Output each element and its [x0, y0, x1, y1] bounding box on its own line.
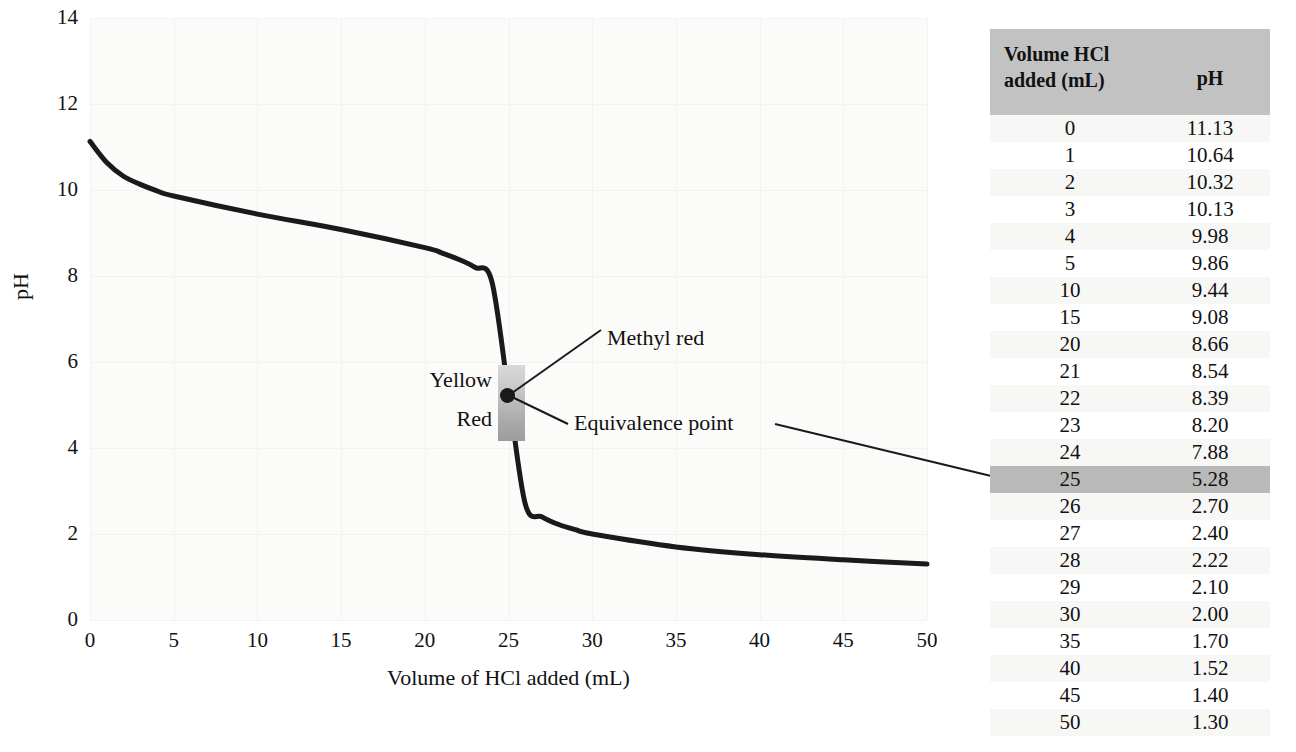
column-header-ph: pH [1150, 29, 1270, 115]
titration-curve [90, 18, 927, 620]
cell-volume: 35 [990, 628, 1150, 655]
cell-ph: 10.64 [1150, 142, 1270, 169]
cell-ph: 8.66 [1150, 331, 1270, 358]
cell-ph: 10.13 [1150, 196, 1270, 223]
cell-ph: 2.70 [1150, 493, 1270, 520]
cell-ph: 2.22 [1150, 547, 1270, 574]
x-axis-tick-30: 30 [562, 628, 622, 652]
table-row-highlighted: 255.28 [990, 466, 1270, 493]
cell-ph: 7.88 [1150, 439, 1270, 466]
table-row: 310.13 [990, 196, 1270, 223]
cell-ph: 2.10 [1150, 574, 1270, 601]
x-axis-tick-45: 45 [813, 628, 873, 652]
table-row: 110.64 [990, 142, 1270, 169]
cell-ph: 1.40 [1150, 682, 1270, 709]
table-row: 302.00 [990, 601, 1270, 628]
table-row: 208.66 [990, 331, 1270, 358]
cell-volume: 21 [990, 358, 1150, 385]
ph-data-table-panel: Volume HCl added (mL) pH 011.13110.64210… [990, 29, 1256, 736]
y-axis-tick-14: 14 [20, 7, 78, 28]
cell-ph: 5.28 [1150, 466, 1270, 493]
table-body: 011.13110.64210.32310.1349.9859.86109.44… [990, 115, 1270, 736]
plot-area [90, 18, 927, 620]
ph-data-table: Volume HCl added (mL) pH 011.13110.64210… [990, 29, 1270, 736]
cell-ph: 8.20 [1150, 412, 1270, 439]
table-row: 011.13 [990, 115, 1270, 142]
table-row: 401.52 [990, 655, 1270, 682]
table-row: 451.40 [990, 682, 1270, 709]
column-header-volume-line2: added (mL) [1004, 67, 1150, 93]
cell-volume: 3 [990, 196, 1150, 223]
column-header-volume: Volume HCl added (mL) [990, 29, 1150, 115]
table-row: 238.20 [990, 412, 1270, 439]
cell-ph: 1.30 [1150, 709, 1270, 736]
table-header-row: Volume HCl added (mL) pH [990, 29, 1270, 115]
y-axis-tick-labels: 02468101214 [0, 18, 78, 620]
cell-volume: 24 [990, 439, 1150, 466]
cell-volume: 30 [990, 601, 1150, 628]
table-row: 501.30 [990, 709, 1270, 736]
methyl-red-transition-band [498, 365, 525, 441]
y-axis-tick-12: 12 [20, 93, 78, 114]
cell-ph: 9.44 [1150, 277, 1270, 304]
cell-volume: 22 [990, 385, 1150, 412]
cell-ph: 10.32 [1150, 169, 1270, 196]
cell-ph: 9.08 [1150, 304, 1270, 331]
x-axis-tick-0: 0 [60, 628, 120, 652]
indicator-red-label: Red [378, 406, 492, 432]
column-header-volume-line1: Volume HCl [1004, 41, 1150, 67]
cell-ph: 9.86 [1150, 250, 1270, 277]
cell-ph: 1.52 [1150, 655, 1270, 682]
cell-volume: 28 [990, 547, 1150, 574]
cell-volume: 15 [990, 304, 1150, 331]
cell-volume: 23 [990, 412, 1150, 439]
methyl-red-callout-label: Methyl red [607, 325, 704, 351]
cell-ph: 8.54 [1150, 358, 1270, 385]
table-row: 159.08 [990, 304, 1270, 331]
cell-volume: 25 [990, 466, 1150, 493]
table-row: 49.98 [990, 223, 1270, 250]
x-axis-tick-50: 50 [897, 628, 957, 652]
cell-volume: 2 [990, 169, 1150, 196]
table-row: 59.86 [990, 250, 1270, 277]
indicator-yellow-label: Yellow [378, 367, 492, 393]
cell-volume: 10 [990, 277, 1150, 304]
table-row: 218.54 [990, 358, 1270, 385]
table-row: 210.32 [990, 169, 1270, 196]
titration-chart-panel: 02468101214 05101520253035404550 pH Volu… [0, 0, 975, 752]
cell-ph: 2.40 [1150, 520, 1270, 547]
x-axis-tick-25: 25 [479, 628, 539, 652]
y-axis-tick-6: 6 [20, 351, 78, 372]
cell-volume: 20 [990, 331, 1150, 358]
cell-volume: 26 [990, 493, 1150, 520]
x-axis-tick-5: 5 [144, 628, 204, 652]
table-row: 272.40 [990, 520, 1270, 547]
cell-ph: 1.70 [1150, 628, 1270, 655]
cell-volume: 1 [990, 142, 1150, 169]
y-axis-tick-4: 4 [20, 437, 78, 458]
cell-volume: 27 [990, 520, 1150, 547]
x-axis-tick-20: 20 [395, 628, 455, 652]
cell-volume: 29 [990, 574, 1150, 601]
gridline-horizontal [90, 620, 927, 621]
cell-volume: 40 [990, 655, 1150, 682]
x-axis-tick-35: 35 [646, 628, 706, 652]
table-row: 351.70 [990, 628, 1270, 655]
table-row: 109.44 [990, 277, 1270, 304]
cell-volume: 4 [990, 223, 1150, 250]
y-axis-title: pH [8, 273, 34, 300]
cell-ph: 2.00 [1150, 601, 1270, 628]
table-row: 247.88 [990, 439, 1270, 466]
cell-ph: 11.13 [1150, 115, 1270, 142]
gridline-vertical [927, 18, 928, 620]
x-axis-tick-15: 15 [311, 628, 371, 652]
table-row: 282.22 [990, 547, 1270, 574]
cell-ph: 8.39 [1150, 385, 1270, 412]
y-axis-tick-2: 2 [20, 523, 78, 544]
cell-volume: 5 [990, 250, 1150, 277]
equivalence-point-marker [500, 388, 515, 403]
table-row: 262.70 [990, 493, 1270, 520]
cell-ph: 9.98 [1150, 223, 1270, 250]
cell-volume: 45 [990, 682, 1150, 709]
cell-volume: 50 [990, 709, 1150, 736]
